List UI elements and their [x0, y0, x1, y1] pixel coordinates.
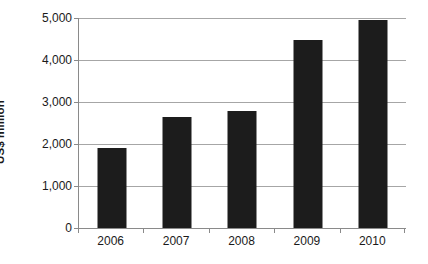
x-tick-label-2007: 2007: [163, 234, 190, 250]
x-axis-tick-labels: 20062007200820092010: [78, 234, 405, 256]
bar-2008[interactable]: [228, 111, 257, 228]
x-tick-mark: [143, 228, 144, 233]
y-tick-label-3000: 3,000: [42, 96, 72, 108]
bars-layer: [79, 18, 406, 228]
x-tick-mark: [274, 228, 275, 233]
x-tick-mark: [340, 228, 341, 233]
x-tick-label-2009: 2009: [294, 234, 321, 250]
x-tick-mark: [404, 228, 405, 233]
bar-2010[interactable]: [359, 20, 388, 228]
x-tick-label-2010: 2010: [359, 234, 386, 250]
y-tick-label-5000: 5,000: [42, 12, 72, 24]
bar-slot: [144, 18, 209, 228]
y-tick-label-1000: 1,000: [42, 180, 72, 192]
x-tick-mark: [209, 228, 210, 233]
x-tick-label-2008: 2008: [228, 234, 255, 250]
y-axis-tick-labels: 01,0002,0003,0004,0005,000: [24, 18, 76, 228]
bar-2006[interactable]: [97, 148, 126, 228]
bar-slot: [341, 18, 406, 228]
y-tick-label-4000: 4,000: [42, 54, 72, 66]
plot-area: [78, 18, 406, 228]
bar-chart: US$ million 01,0002,0003,0004,0005,000 2…: [0, 0, 428, 264]
bar-2009[interactable]: [293, 40, 322, 228]
bar-2007[interactable]: [163, 117, 192, 228]
x-tick-mark: [78, 228, 79, 233]
bar-slot: [79, 18, 144, 228]
x-tick-label-2006: 2006: [97, 234, 124, 250]
y-tick-label-2000: 2,000: [42, 138, 72, 150]
bar-slot: [275, 18, 340, 228]
y-tick-label-0: 0: [65, 222, 72, 234]
bar-slot: [210, 18, 275, 228]
x-axis-tick-marks: [78, 228, 405, 233]
